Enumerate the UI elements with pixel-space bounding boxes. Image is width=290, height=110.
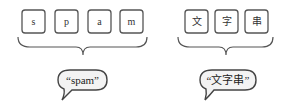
char-label: a [97,16,102,27]
char-box: a [88,10,111,33]
char-label: 字 [222,15,232,27]
group-latin: s p a m “spam” [18,10,147,100]
char-box: 文 [185,10,208,33]
char-label: 串 [252,16,262,27]
speech-bubble: “文字串” [200,70,256,100]
char-box: 字 [215,10,238,33]
char-label: 文 [192,15,202,27]
bubble-text: “文字串” [207,73,250,86]
char-box: m [120,10,143,33]
char-box: s [22,10,45,33]
string-characters-diagram: s p a m “spam” 文 字 串 [0,0,290,110]
char-box: p [55,10,78,33]
char-label: s [32,16,36,27]
char-label: p [64,16,69,27]
bubble-text: “spam” [66,74,99,86]
char-label: m [128,16,136,27]
speech-bubble: “spam” [58,70,107,100]
curly-brace [18,37,147,55]
curly-brace [178,37,273,55]
group-cjk: 文 字 串 “文字串” [178,10,273,100]
char-box: 串 [245,10,268,33]
